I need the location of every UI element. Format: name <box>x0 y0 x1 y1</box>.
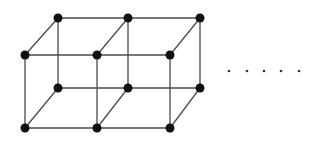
edge-front-top-0-back-top-0 <box>25 18 58 55</box>
node-back-top-0 <box>54 14 63 23</box>
node-front-top-2 <box>166 51 175 60</box>
node-back-bottom-0 <box>54 84 63 93</box>
node-front-top-0 <box>21 51 30 60</box>
lattice-edges <box>25 18 200 128</box>
edge-front-top-2-back-top-2 <box>170 18 200 55</box>
node-back-top-2 <box>196 14 205 23</box>
ellipsis-dot-3 <box>280 70 283 73</box>
node-back-top-1 <box>124 14 133 23</box>
ellipsis-dot-1 <box>246 70 249 73</box>
continuation-ellipsis <box>228 70 301 73</box>
node-front-bottom-1 <box>93 124 102 133</box>
lattice-nodes <box>21 14 205 133</box>
node-front-bottom-2 <box>166 124 175 133</box>
edge-front-bottom-0-back-bottom-0 <box>25 88 58 128</box>
edge-front-top-1-back-top-1 <box>97 18 128 55</box>
node-front-top-1 <box>93 51 102 60</box>
ellipsis-dot-4 <box>298 70 301 73</box>
cubic-lattice-diagram <box>0 0 314 149</box>
edge-front-bottom-2-back-bottom-2 <box>170 88 200 128</box>
ellipsis-dot-0 <box>228 70 231 73</box>
node-front-bottom-0 <box>21 124 30 133</box>
node-back-bottom-2 <box>196 84 205 93</box>
ellipsis-dot-2 <box>263 70 266 73</box>
node-back-bottom-1 <box>124 84 133 93</box>
edge-front-bottom-1-back-bottom-1 <box>97 88 128 128</box>
